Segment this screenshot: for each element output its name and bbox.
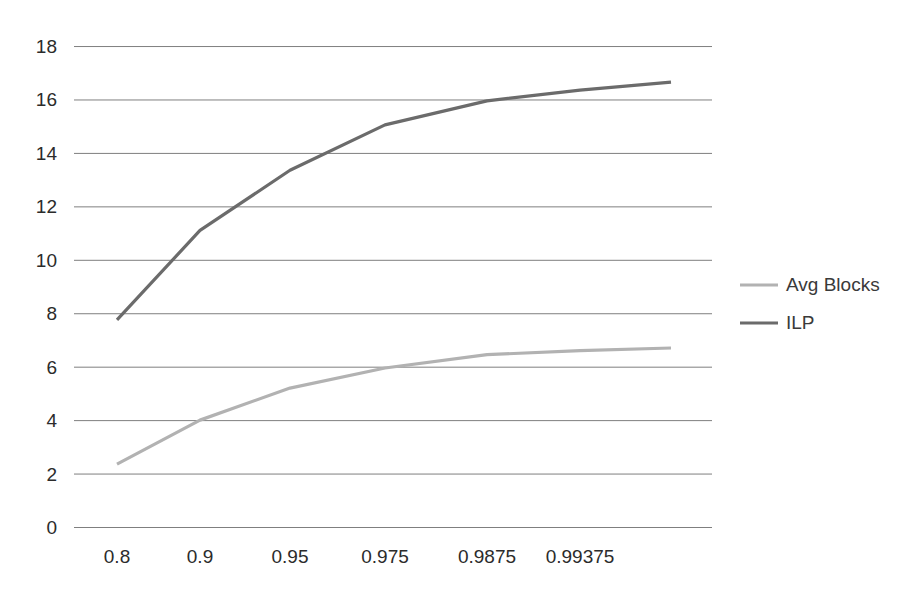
chart-canvas: 181614121086420 0.80.90.950.9750.98750.9… [0, 0, 923, 604]
y-axis-tick-label: 0 [46, 517, 57, 538]
legend-label: Avg Blocks [786, 274, 880, 295]
chart-legend: Avg BlocksILP [740, 274, 880, 333]
x-axis-tick-labels: 0.80.90.950.9750.98750.99375 [104, 546, 615, 567]
x-axis-tick-label: 0.975 [361, 546, 409, 567]
series-line-ilp [117, 82, 671, 320]
y-axis-tick-label: 16 [36, 89, 57, 110]
y-axis-tick-label: 2 [46, 464, 57, 485]
gridlines-group [74, 47, 712, 528]
x-axis-tick-label: 0.99375 [546, 546, 615, 567]
x-axis-tick-label: 0.8 [104, 546, 130, 567]
x-axis-tick-label: 0.9 [187, 546, 213, 567]
y-axis-tick-label: 6 [46, 357, 57, 378]
y-axis-tick-label: 18 [36, 36, 57, 57]
legend-label: ILP [786, 312, 815, 333]
y-axis-tick-label: 14 [36, 143, 58, 164]
y-axis-tick-label: 8 [46, 303, 57, 324]
y-axis-tick-label: 4 [46, 410, 57, 431]
y-axis-tick-label: 10 [36, 250, 57, 271]
line-chart: 181614121086420 0.80.90.950.9750.98750.9… [0, 0, 923, 604]
x-axis-tick-label: 0.9875 [458, 546, 516, 567]
y-axis-tick-labels: 181614121086420 [36, 36, 58, 538]
series-line-avg-blocks [117, 348, 671, 464]
series-lines-group [117, 82, 671, 464]
y-axis-tick-label: 12 [36, 196, 57, 217]
x-axis-tick-label: 0.95 [272, 546, 309, 567]
